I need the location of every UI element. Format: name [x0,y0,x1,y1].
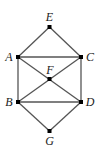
edge-d-g [50,102,82,131]
nodes-group [16,25,83,133]
node-label-c: C [86,50,95,64]
edge-e-a [18,27,50,57]
node-d [79,100,83,104]
node-c [79,55,83,59]
node-g [48,129,52,133]
edge-e-c [50,27,82,57]
node-label-a: A [4,50,13,64]
node-a [16,55,20,59]
node-f [48,77,52,81]
node-label-d: D [85,95,95,109]
graph-diagram: EACFBDG [0,0,101,157]
node-label-e: E [45,10,54,24]
node-label-g: G [45,134,54,148]
node-b [16,100,20,104]
node-label-f: F [45,63,54,77]
node-e [48,25,52,29]
node-label-b: B [5,95,13,109]
edge-b-g [18,102,50,131]
